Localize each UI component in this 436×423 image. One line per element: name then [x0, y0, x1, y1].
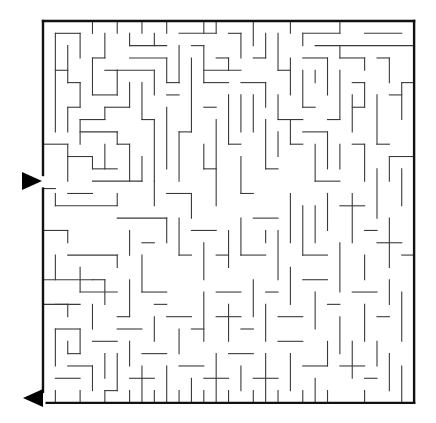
entrance-arrow-icon	[22, 172, 42, 190]
exit-arrow-icon	[23, 389, 43, 407]
maze-canvas	[0, 0, 436, 423]
maze-border	[43, 21, 414, 403]
maze-walls	[43, 21, 414, 403]
